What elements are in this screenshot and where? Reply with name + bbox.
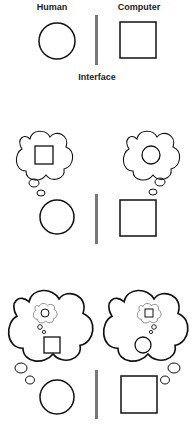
thought-bubble [15, 363, 27, 373]
hci-diagram [0, 0, 195, 438]
computer-square [121, 376, 157, 413]
computer-square [120, 200, 156, 236]
human-big-thought-cloud [9, 291, 93, 362]
computer-thought-cloud [123, 131, 179, 180]
human-circle [40, 200, 74, 234]
panel-mutual-models [16, 131, 179, 244]
panel-nested-models [9, 291, 188, 419]
interface-bar [95, 15, 98, 65]
thought-bubble [37, 190, 45, 196]
human-thought-cloud [16, 131, 72, 180]
human-circle [40, 380, 74, 414]
thought-bubble [26, 376, 35, 384]
computer-square [120, 22, 156, 58]
thought-bubble [161, 376, 170, 384]
interface-bar [95, 370, 98, 419]
thought-bubble [149, 189, 157, 195]
computer-big-thought-cloud [104, 291, 188, 362]
interface-bar [95, 194, 98, 244]
thought-bubble [168, 363, 180, 373]
panel-basic [39, 15, 156, 65]
human-circle [39, 23, 75, 59]
